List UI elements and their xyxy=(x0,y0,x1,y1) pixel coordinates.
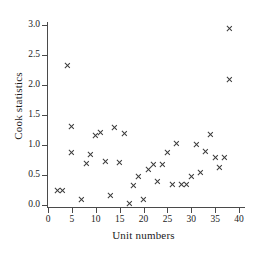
data-point xyxy=(221,154,228,161)
data-point xyxy=(68,123,75,130)
data-point xyxy=(193,141,200,148)
data-point xyxy=(216,164,223,171)
data-point xyxy=(226,25,233,32)
data-point xyxy=(130,182,137,189)
plot-area: 0.00.51.01.52.02.53.0 0510152025303540 xyxy=(0,0,262,253)
x-tick-mark xyxy=(72,208,73,213)
x-tick-label: 5 xyxy=(70,214,75,224)
data-point xyxy=(145,166,152,173)
x-tick-mark xyxy=(120,208,121,213)
data-point xyxy=(188,173,195,180)
y-tick-label: 0.0 xyxy=(18,199,40,209)
data-point xyxy=(54,187,61,194)
x-tick-label: 40 xyxy=(234,214,244,224)
x-tick-label: 35 xyxy=(210,214,220,224)
y-axis-line xyxy=(47,22,48,208)
data-point xyxy=(126,200,133,207)
x-tick-label: 10 xyxy=(91,214,101,224)
data-point xyxy=(59,187,66,194)
y-tick-mark xyxy=(42,145,47,146)
y-tick-mark xyxy=(42,175,47,176)
data-point xyxy=(83,160,90,167)
data-point xyxy=(135,173,142,180)
y-tick-mark xyxy=(42,55,47,56)
data-point xyxy=(92,132,99,139)
data-point xyxy=(183,181,190,188)
data-point xyxy=(111,124,118,131)
x-tick-mark xyxy=(48,208,49,213)
data-point xyxy=(212,154,219,161)
data-point xyxy=(78,196,85,203)
data-point xyxy=(121,130,128,137)
x-tick-mark xyxy=(215,208,216,213)
data-point xyxy=(197,169,204,176)
data-point xyxy=(154,178,161,185)
y-tick-mark xyxy=(42,205,47,206)
data-point xyxy=(116,159,123,166)
x-tick-label: 30 xyxy=(187,214,197,224)
data-point xyxy=(173,140,180,147)
x-tick-label: 15 xyxy=(115,214,125,224)
data-point xyxy=(140,196,147,203)
x-tick-label: 20 xyxy=(139,214,149,224)
data-point xyxy=(207,131,214,138)
x-tick-mark xyxy=(144,208,145,213)
data-point xyxy=(164,149,171,156)
data-point xyxy=(68,149,75,156)
y-tick-mark xyxy=(42,25,47,26)
x-tick-mark xyxy=(96,208,97,213)
data-point xyxy=(102,158,109,165)
x-tick-label: 0 xyxy=(46,214,51,224)
data-point xyxy=(150,161,157,168)
data-point xyxy=(64,62,71,69)
y-tick-mark xyxy=(42,115,47,116)
y-axis-label: Cook statistics xyxy=(12,16,28,196)
data-point xyxy=(226,76,233,83)
y-tick-mark xyxy=(42,85,47,86)
x-axis-label: Unit numbers xyxy=(48,229,239,241)
x-tick-mark xyxy=(191,208,192,213)
data-point xyxy=(178,181,185,188)
data-point xyxy=(107,192,114,199)
data-point xyxy=(159,161,166,168)
x-tick-label: 25 xyxy=(163,214,173,224)
cook-statistics-scatter-chart: 0.00.51.01.52.02.53.0 0510152025303540 C… xyxy=(0,0,262,253)
data-point xyxy=(97,129,104,136)
x-tick-mark xyxy=(239,208,240,213)
x-tick-mark xyxy=(167,208,168,213)
data-point xyxy=(169,181,176,188)
data-point xyxy=(202,148,209,155)
data-point xyxy=(87,151,94,158)
